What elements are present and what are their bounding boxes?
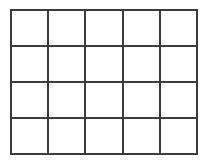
- grid-cell[interactable]: [49, 47, 86, 83]
- grid-cell[interactable]: [161, 47, 198, 83]
- grid-cell[interactable]: [161, 11, 198, 47]
- grid-cell[interactable]: [86, 119, 123, 155]
- grid-cell[interactable]: [12, 83, 49, 119]
- grid-cell[interactable]: [124, 11, 161, 47]
- grid-cell[interactable]: [86, 47, 123, 83]
- grid-cell[interactable]: [86, 11, 123, 47]
- grid-cell[interactable]: [161, 119, 198, 155]
- grid-figure: [10, 9, 198, 155]
- grid-cell[interactable]: [12, 11, 49, 47]
- grid-cell[interactable]: [124, 119, 161, 155]
- grid-cell[interactable]: [124, 47, 161, 83]
- grid-cell[interactable]: [49, 11, 86, 47]
- grid-cell[interactable]: [49, 119, 86, 155]
- grid-cell[interactable]: [12, 119, 49, 155]
- grid-cell[interactable]: [161, 83, 198, 119]
- canvas: [0, 0, 210, 165]
- grid-cell[interactable]: [124, 83, 161, 119]
- grid-cell[interactable]: [12, 47, 49, 83]
- grid-cell[interactable]: [49, 83, 86, 119]
- grid-cell[interactable]: [86, 83, 123, 119]
